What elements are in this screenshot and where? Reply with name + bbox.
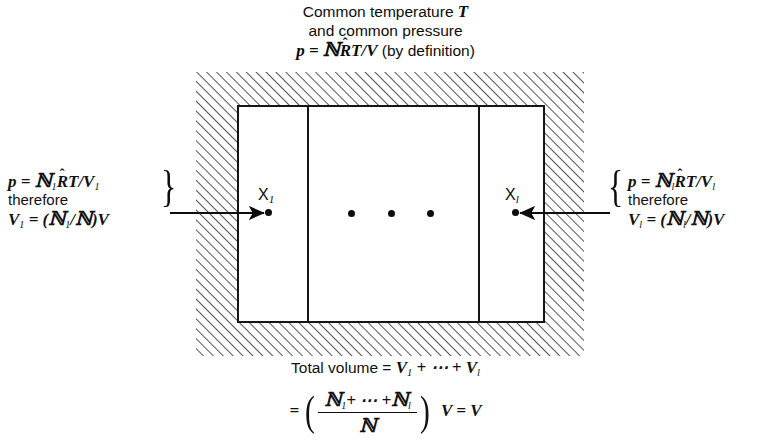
script-n-total: ℕ [323, 38, 340, 60]
mole-fraction-sum: ℕ1+ ⋯ +ℕlℕ [318, 388, 417, 436]
left-close-v: )V [92, 210, 109, 229]
big-paren-close: ) [420, 392, 430, 432]
bottom2-eq: = [289, 401, 303, 420]
left-annotation: p = ℕ1ˆRT/V1 therefore V1 = (ℕ1/ℕ)V [8, 171, 109, 228]
right-annotation: p = ℕlˆRT/Vl therefore Vl = (ℕl/ℕ)V [628, 171, 724, 228]
species-dot-l [512, 209, 519, 216]
right-v: V [628, 210, 639, 229]
right-ann-line-1: p = ℕlˆRT/Vl [628, 171, 724, 190]
left-tv: T/V [68, 172, 94, 191]
left-r-hat: ˆR [57, 172, 68, 191]
left-brace: } [161, 165, 176, 209]
hat-accent: ˆ [343, 34, 348, 53]
bottom2-v2: V [470, 401, 481, 420]
right-eq3: = ( [642, 210, 666, 229]
t-over-v: T/V [351, 41, 377, 60]
right-close-v: )V [707, 210, 724, 229]
left-v: V [8, 210, 19, 229]
bottom-vl-sub: l [477, 367, 480, 378]
cell-label-xl-main: X [505, 186, 516, 203]
num-plus-1: + [346, 391, 360, 410]
header-line-pressure: and common pressure [0, 21, 771, 40]
ellipsis-dot-3 [427, 210, 434, 217]
partition-divider-left [307, 107, 309, 321]
left-script-n1: ℕ [35, 169, 52, 191]
right-ann-line-3: Vl = (ℕl/ℕ)V [628, 209, 724, 228]
cell-label-x1-main: X [258, 186, 269, 203]
right-nl-frac: ℕ [666, 207, 683, 229]
pressure-symbol: p [296, 41, 305, 60]
by-definition-note: (by definition) [378, 42, 475, 59]
header-line1-text: Common temperature [303, 3, 458, 20]
figure-canvas: Common temperature T and common pressure… [0, 0, 771, 446]
cell-label-x1: X1 [258, 186, 274, 205]
num-nl: ℕ [391, 388, 408, 410]
bottom-vl: V [466, 358, 477, 377]
cell-label-xl: Xl [505, 186, 519, 205]
right-r-hat: ˆR [674, 172, 685, 191]
right-tv: T/V [686, 172, 712, 191]
num-cdots: ⋯ [360, 391, 377, 410]
bottom-plus-2: + [448, 358, 466, 377]
total-volume-text: Total volume = [291, 359, 396, 376]
volume-fraction-line: = (ℕ1+ ⋯ +ℕlℕ)V = V [0, 388, 771, 436]
big-paren-open: ( [305, 392, 315, 432]
fraction-numerator: ℕ1+ ⋯ +ℕl [318, 388, 417, 413]
left-tv-sub: 1 [94, 181, 99, 192]
left-ann-line-3: V1 = (ℕ1/ℕ)V [8, 209, 109, 228]
partition-divider-right [478, 107, 480, 321]
species-dot-1 [265, 209, 272, 216]
bottom-v1: V [396, 358, 407, 377]
bottom2-v: V [441, 401, 452, 420]
ellipsis-dot-1 [348, 210, 355, 217]
bottom-cdots: ⋯ [431, 358, 448, 377]
bottom-plus-1: + [412, 358, 430, 377]
right-n-total: ℕ [691, 207, 708, 229]
right-script-nl: ℕ [655, 169, 672, 191]
total-volume-line: Total volume = V1 + ⋯ + Vl [0, 357, 771, 378]
r-hat-symbol: ˆR [340, 41, 351, 60]
bottom2-eq2: = [452, 401, 470, 420]
left-ann-line-1: p = ℕ1ˆRT/V1 [8, 171, 109, 190]
right-brace: { [608, 165, 623, 209]
num-plus-2: + [377, 391, 391, 410]
den-n: ℕ [359, 414, 376, 436]
ellipsis-dot-2 [388, 210, 395, 217]
equals-sign: = [305, 41, 323, 60]
num-n1: ℕ [324, 388, 341, 410]
left-hat-accent: ˆ [60, 165, 65, 184]
right-eq: = [637, 172, 655, 191]
left-n-total: ℕ [75, 207, 92, 229]
right-hat-accent: ˆ [678, 165, 683, 184]
fraction-denominator: ℕ [318, 413, 417, 436]
num-nl-sub: l [408, 400, 411, 411]
right-p: p [628, 172, 637, 191]
left-eq3: = ( [24, 210, 48, 229]
cell-label-x1-sub: 1 [269, 193, 275, 205]
cell-label-xl-sub: l [516, 193, 519, 205]
header-caption: Common temperature T and common pressure… [0, 2, 771, 60]
header-line-equation: p = ℕˆRT/V (by definition) [0, 40, 771, 60]
left-p: p [8, 172, 17, 191]
left-n1-frac: ℕ [48, 207, 65, 229]
left-eq: = [17, 172, 35, 191]
right-tv-sub: l [712, 181, 715, 192]
temperature-symbol: T [458, 2, 468, 21]
header-line-temperature: Common temperature T [0, 2, 771, 21]
